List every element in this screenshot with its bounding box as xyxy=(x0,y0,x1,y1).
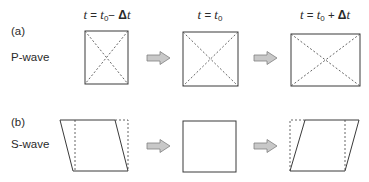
p-wave-element-before xyxy=(85,31,128,84)
p-wave-element-after xyxy=(291,34,360,86)
right-arrow-icon xyxy=(254,140,277,153)
s-wave-element-after xyxy=(290,120,359,171)
right-arrow-icon xyxy=(254,52,277,65)
diagram-graphics xyxy=(0,0,369,182)
right-arrow-icon xyxy=(147,52,170,65)
right-arrow-icon xyxy=(147,140,170,153)
s-wave-element-before xyxy=(60,120,128,171)
wave-deformation-diagram: t = t0− Δt t = t0 t = t0 + Δt (a) P-wave… xyxy=(0,0,369,182)
s-wave-element-now xyxy=(183,121,236,172)
p-wave-element-now xyxy=(183,32,238,86)
